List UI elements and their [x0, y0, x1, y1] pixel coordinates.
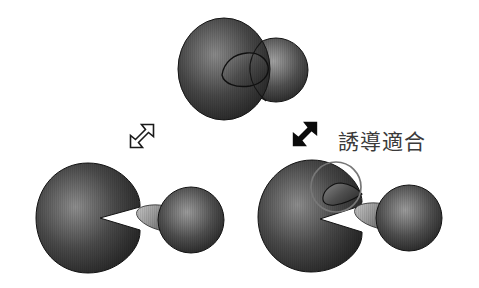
enzyme-substrate-complex	[178, 18, 308, 120]
substrate-free-left	[137, 187, 224, 253]
enzyme-free-rigid	[36, 163, 140, 273]
enzyme-induced-fit	[258, 160, 362, 272]
arrow-solid-bidirectional	[294, 123, 317, 146]
figure-canvas: 誘導適合	[0, 0, 479, 288]
induced-fit-label: 誘導適合	[338, 130, 426, 154]
arrow-outline-bidirectional	[131, 125, 154, 148]
substrate-free-right	[355, 185, 442, 251]
